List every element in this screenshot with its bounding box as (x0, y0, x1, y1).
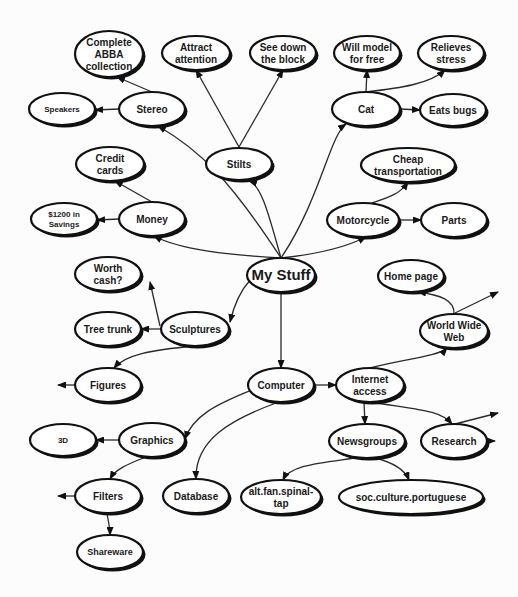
node-savings[interactable]: $1200 inSavings (31, 203, 100, 238)
node-eatsbugs[interactable]: Eats bugs (420, 94, 489, 129)
node-label: ABBA (95, 49, 124, 60)
node-homepage[interactable]: Home page (378, 260, 447, 295)
connector-arrow (281, 124, 346, 258)
node-newsgroups[interactable]: Newsgroups (329, 424, 408, 461)
node-label: Savings (49, 220, 80, 229)
node-label: Stereo (136, 104, 167, 115)
connector-arrow (154, 236, 281, 258)
node-label: See down (260, 42, 307, 53)
node-label: My Stuff (251, 266, 311, 283)
node-relieves[interactable]: Relievesstress (418, 36, 487, 73)
node-layer: My StuffStiltsAttractattentionSee downth… (29, 31, 491, 572)
connector-arrow (115, 181, 152, 202)
node-shareware[interactable]: Shareware (77, 535, 146, 572)
node-label: stress (436, 54, 466, 65)
node-worth[interactable]: Worthcash? (75, 257, 144, 294)
node-label: cards (97, 165, 124, 176)
node-label: Internet (352, 374, 389, 385)
connector-arrow (97, 219, 119, 220)
node-cheap[interactable]: Cheaptransportation (361, 148, 458, 185)
node-willmodel[interactable]: Will modelfor free (334, 36, 403, 73)
node-database[interactable]: Database (163, 479, 232, 516)
node-internet[interactable]: Internetaccess (336, 368, 407, 405)
node-treetrunk[interactable]: Tree trunk (75, 312, 144, 349)
connector-arrow (366, 70, 367, 92)
connector-arrow (375, 458, 409, 480)
node-computer[interactable]: Computer (248, 368, 317, 405)
connector-arrow (366, 70, 445, 92)
connector-arrow (249, 181, 281, 258)
node-label: collection (86, 61, 133, 72)
connector-arrow (281, 237, 366, 258)
node-label: World Wide (427, 320, 482, 331)
connector-arrow (196, 403, 276, 479)
connector-arrow (455, 292, 498, 313)
node-graphics[interactable]: Graphics (119, 423, 188, 460)
node-sculptures[interactable]: Sculptures (161, 312, 232, 349)
node-label: Credit (96, 153, 126, 164)
node-label: 3D (58, 436, 68, 445)
node-threed[interactable]: 3D (30, 424, 99, 459)
connector-arrow (283, 458, 355, 480)
node-abba[interactable]: CompleteABBAcollection (75, 31, 146, 80)
node-label: Web (444, 332, 465, 343)
node-label: Complete (86, 37, 132, 48)
mind-map-canvas: My StuffStiltsAttractattentionSee downth… (0, 0, 518, 597)
node-label: Relieves (431, 42, 472, 53)
node-label: alt.fan.spinal- (249, 486, 313, 497)
node-stereo[interactable]: Stereo (119, 92, 188, 129)
connector-arrow (370, 402, 452, 424)
node-label: Database (174, 491, 219, 502)
node-my_stuff[interactable]: My Stuff (247, 258, 318, 295)
node-figures[interactable]: Figures (75, 368, 144, 405)
connector-arrow (158, 126, 281, 258)
node-label: Shareware (87, 547, 133, 557)
node-label: Money (136, 214, 168, 225)
connector-arrow (418, 292, 454, 314)
node-research[interactable]: Research (421, 424, 490, 461)
node-label: tap (274, 498, 289, 509)
node-label: Graphics (130, 435, 174, 446)
node-label: Newsgroups (337, 436, 397, 447)
connector-arrow (239, 70, 283, 147)
node-label: cash? (94, 275, 123, 286)
node-parts[interactable]: Parts (421, 203, 490, 240)
connector-arrow (117, 77, 152, 92)
node-label: attention (175, 54, 217, 65)
connector-arrow (150, 282, 160, 326)
node-filters[interactable]: Filters (75, 479, 144, 516)
node-label: Computer (257, 380, 304, 391)
connector-arrow (95, 109, 119, 110)
node-label: for free (350, 54, 385, 65)
node-label: Will model (342, 42, 392, 53)
node-label: Attract (180, 42, 213, 53)
node-spinaltap[interactable]: alt.fan.spinal-tap (241, 480, 324, 517)
node-money[interactable]: Money (119, 202, 188, 239)
node-label: soc.culture.portuguese (356, 492, 467, 503)
node-motorcycle[interactable]: Motorcycle (327, 203, 402, 240)
connector-arrow (110, 457, 146, 479)
node-label: Stilts (227, 159, 252, 170)
node-cat[interactable]: Cat (332, 92, 403, 129)
node-stilts[interactable]: Stilts (206, 148, 275, 183)
connector-arrow (196, 70, 239, 147)
connector-arrow (372, 182, 408, 203)
node-credit[interactable]: Creditcards (76, 147, 147, 184)
node-attract[interactable]: Attractattention (162, 36, 233, 73)
node-label: Cheap (393, 154, 424, 165)
connector-arrow (455, 413, 498, 424)
node-label: Eats bugs (429, 105, 477, 116)
node-seedown[interactable]: See downthe block (250, 36, 319, 73)
node-label: the block (261, 54, 305, 65)
node-speakers[interactable]: Speakers (29, 93, 98, 128)
node-label: Tree trunk (84, 324, 133, 335)
connector-arrow (185, 387, 258, 439)
node-portuguese[interactable]: soc.culture.portuguese (339, 480, 486, 517)
node-label: access (353, 386, 387, 397)
node-label: Research (431, 436, 476, 447)
connector-arrow (400, 109, 420, 110)
node-label: Sculptures (169, 324, 221, 335)
node-www[interactable]: World WideWeb (420, 314, 491, 351)
connector-layer (58, 70, 498, 535)
node-label: $1200 in (48, 210, 80, 219)
